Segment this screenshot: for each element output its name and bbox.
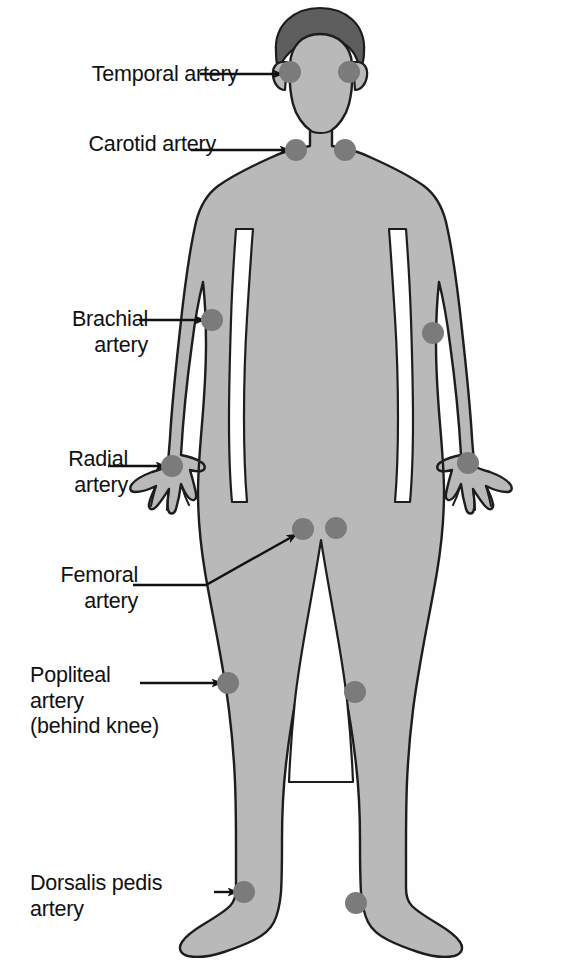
pulse-point-brachial-right	[422, 322, 444, 344]
label-popliteal-line-3: (behind knee)	[30, 714, 220, 740]
label-radial: Radialartery	[18, 447, 128, 498]
label-popliteal-line-2: artery	[30, 689, 220, 715]
label-brachial-line-2: artery	[18, 333, 148, 359]
label-popliteal: Poplitealartery(behind knee)	[30, 663, 220, 740]
pulse-point-radial-left	[161, 455, 183, 477]
pulse-point-femoral-right	[325, 517, 347, 539]
label-temporal-line-1: Temporal artery	[30, 62, 238, 88]
label-temporal: Temporal artery	[30, 62, 238, 88]
label-femoral-line-2: artery	[18, 589, 138, 615]
pulse-point-radial-right	[457, 452, 479, 474]
label-brachial-line-1: Brachial	[18, 307, 148, 333]
body-silhouette	[130, 34, 511, 957]
pulse-point-dorsalis-pedis-left	[233, 881, 255, 903]
pulse-point-brachial-left	[201, 309, 223, 331]
pulse-points-diagram: Temporal arteryCarotid arteryBrachialart…	[0, 0, 563, 976]
label-dorsalis_pedis-line-1: Dorsalis pedis	[30, 871, 230, 897]
pulse-point-popliteal-left	[217, 672, 239, 694]
label-femoral-line-1: Femoral	[18, 563, 138, 589]
pulse-point-carotid-right	[334, 139, 356, 161]
pulse-point-femoral-left	[292, 518, 314, 540]
pulse-point-temporal-left	[279, 61, 301, 83]
pulse-point-carotid-left	[285, 139, 307, 161]
label-femoral: Femoralartery	[18, 563, 138, 614]
label-radial-line-2: artery	[18, 473, 128, 499]
label-carotid: Carotid artery	[30, 132, 216, 158]
label-brachial: Brachialartery	[18, 307, 148, 358]
pulse-point-popliteal-right	[344, 681, 366, 703]
label-dorsalis_pedis: Dorsalis pedisartery	[30, 871, 230, 922]
label-dorsalis_pedis-line-2: artery	[30, 897, 230, 923]
label-radial-line-1: Radial	[18, 447, 128, 473]
label-popliteal-line-1: Popliteal	[30, 663, 220, 689]
pulse-point-temporal-right	[338, 61, 360, 83]
pulse-point-dorsalis-pedis-right	[345, 892, 367, 914]
label-carotid-line-1: Carotid artery	[30, 132, 216, 158]
